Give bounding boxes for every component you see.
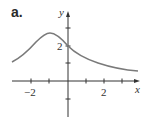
x-tick-label-2: 2 bbox=[101, 86, 107, 98]
function-curve bbox=[12, 33, 138, 71]
x-tick-label-neg2: −2 bbox=[24, 86, 36, 98]
y-axis bbox=[66, 11, 71, 117]
y-axis-label: y bbox=[58, 6, 64, 18]
x-axis-label: x bbox=[134, 83, 140, 95]
y-tick-label-2: 2 bbox=[57, 40, 63, 52]
y-axis-arrow-icon bbox=[66, 11, 70, 17]
x-axis bbox=[12, 79, 140, 84]
chart: −2 2 2 x y bbox=[0, 0, 149, 121]
